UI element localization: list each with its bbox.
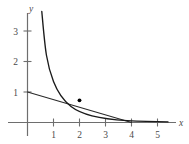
x-tick-label-4: 4 xyxy=(129,130,134,140)
axes-group xyxy=(8,13,176,136)
tangent-line xyxy=(28,92,132,123)
graph-figure: 1 2 3 4 5 1 2 3 x y xyxy=(0,0,189,144)
y-tick-label-2: 2 xyxy=(13,57,18,67)
y-tick-label-3: 3 xyxy=(13,27,18,37)
hyperbola-curve xyxy=(42,12,168,122)
x-tick-label-3: 3 xyxy=(103,130,108,140)
x-tick-label-5: 5 xyxy=(155,130,160,140)
x-axis-label: x xyxy=(178,118,184,128)
x-tick-label-2: 2 xyxy=(77,130,82,140)
y-axis-label: y xyxy=(28,4,34,14)
y-tick-label-1: 1 xyxy=(13,88,18,98)
tangency-point-marker xyxy=(78,98,82,102)
x-tick-label-1: 1 xyxy=(51,130,56,140)
plot-canvas: 1 2 3 4 5 1 2 3 x y xyxy=(0,0,189,144)
